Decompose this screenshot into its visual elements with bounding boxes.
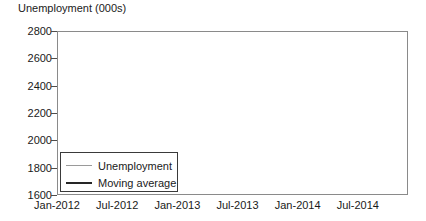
legend-item: Unemployment <box>66 157 172 174</box>
x-axis-tick-label: Jul-2012 <box>96 199 138 211</box>
legend-swatch-icon <box>66 165 92 166</box>
unemployment-chart: Unemployment (000s) 16001800200022002400… <box>0 0 426 221</box>
legend-label: Unemployment <box>98 160 172 172</box>
chart-legend: UnemploymentMoving average <box>60 152 178 192</box>
x-axis-tick-label: Jan-2014 <box>275 199 321 211</box>
x-axis-tick-labels: Jan-2012Jul-2012Jan-2013Jul-2013Jan-2014… <box>57 199 408 217</box>
legend-swatch-icon <box>66 182 92 184</box>
legend-label: Moving average <box>98 177 176 189</box>
x-axis-tick-label: Jan-2012 <box>34 199 80 211</box>
y-axis-tick-marks <box>0 31 57 195</box>
x-axis-tick-label: Jul-2014 <box>337 199 379 211</box>
x-axis-tick-label: Jul-2013 <box>216 199 258 211</box>
y-axis-tick-mark <box>51 195 57 196</box>
chart-title: Unemployment (000s) <box>18 2 126 14</box>
x-axis-tick-label: Jan-2013 <box>154 199 200 211</box>
legend-item: Moving average <box>66 174 176 191</box>
